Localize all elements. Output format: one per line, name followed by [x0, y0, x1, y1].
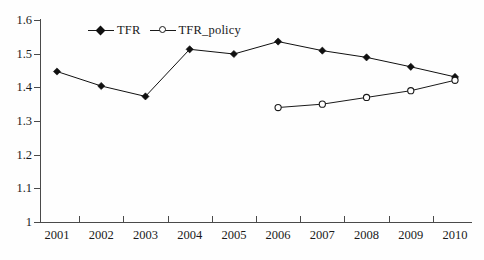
data-point-marker — [319, 101, 325, 107]
legend-entry-tfr-policy[interactable]: TFR_policy — [150, 23, 241, 38]
legend-label-tfr: TFR — [117, 23, 141, 38]
data-point-marker — [275, 104, 281, 110]
chart-container: 1.61.51.41.31.21.11 20012002200320042005… — [0, 0, 484, 260]
legend-label-tfr-policy: TFR_policy — [179, 23, 241, 38]
legend-entry-tfr[interactable]: TFR — [88, 23, 141, 38]
series-tfr — [53, 38, 458, 100]
series-line — [57, 42, 455, 97]
data-point-marker — [363, 94, 369, 100]
data-point-marker — [407, 63, 414, 70]
data-point-marker — [452, 77, 458, 83]
chart-legend: TFR TFR_policy — [88, 20, 241, 40]
data-point-marker — [363, 54, 370, 61]
series-layer — [0, 0, 484, 260]
data-point-marker — [230, 50, 237, 57]
data-point-marker — [275, 38, 282, 45]
data-point-marker — [408, 88, 414, 94]
data-point-marker — [319, 47, 326, 54]
data-point-marker — [98, 82, 105, 89]
filled-diamond-icon — [88, 24, 114, 36]
series-tfr-policy — [275, 77, 458, 110]
open-circle-icon — [150, 24, 176, 36]
data-point-marker — [53, 68, 60, 75]
